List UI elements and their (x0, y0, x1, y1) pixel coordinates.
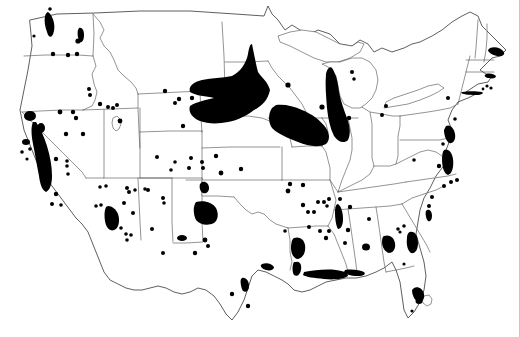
occurrence-point (173, 101, 177, 105)
occurrence-point (20, 150, 24, 154)
range-area-alabama-interior (362, 244, 370, 251)
range-area-california-sacramento (37, 123, 45, 133)
occurrence-point (442, 184, 446, 188)
occurrence-point (318, 229, 322, 233)
occurrence-point (81, 132, 85, 136)
occurrence-point (127, 190, 131, 194)
occurrence-point (143, 187, 147, 191)
occurrence-point (28, 147, 32, 151)
occurrence-point (161, 251, 165, 255)
occurrence-point (402, 262, 405, 265)
occurrence-point (131, 211, 135, 215)
occurrence-point (74, 116, 78, 120)
occurrence-point (66, 172, 70, 176)
occurrence-point (173, 160, 177, 164)
occurrence-point (71, 110, 75, 114)
occurrence-point (133, 188, 137, 192)
occurrence-point (118, 119, 123, 124)
occurrence-point (25, 157, 28, 160)
occurrence-point (99, 203, 103, 207)
occurrence-point (283, 229, 287, 233)
occurrence-point (51, 52, 55, 56)
range-area-california-north-lobe (24, 111, 36, 121)
occurrence-point (125, 238, 129, 242)
occurrence-point (453, 117, 457, 121)
occurrence-point (104, 184, 108, 188)
occurrence-point (75, 52, 79, 56)
occurrence-point (98, 185, 102, 189)
occurrence-point (50, 202, 54, 206)
occurrence-point (200, 160, 204, 164)
occurrence-point (187, 166, 191, 170)
occurrence-point (485, 84, 488, 87)
occurrence-point (446, 96, 450, 100)
occurrence-point (162, 201, 166, 205)
occurrence-point (430, 195, 434, 199)
occurrence-point (306, 210, 310, 214)
occurrence-point (203, 238, 208, 243)
occurrence-point (338, 197, 342, 201)
occurrence-point (124, 232, 128, 236)
occurrence-point (489, 86, 492, 89)
occurrence-point (380, 113, 384, 117)
occurrence-point (350, 70, 354, 74)
occurrence-point (161, 196, 165, 200)
occurrence-point (312, 210, 316, 214)
occurrence-point (129, 233, 133, 237)
occurrence-point (348, 205, 352, 209)
occurrence-point (94, 204, 98, 208)
occurrence-point (169, 168, 173, 172)
occurrence-point (347, 116, 351, 120)
occurrence-point (66, 53, 70, 57)
occurrence-point (230, 292, 234, 296)
distribution-map-figure (0, 0, 520, 337)
occurrence-point (352, 77, 356, 81)
range-area-chesapeake-bay (442, 149, 453, 175)
occurrence-point (319, 104, 324, 109)
occurrence-point (288, 182, 292, 186)
occurrence-point (327, 229, 331, 233)
occurrence-point (125, 186, 129, 190)
occurrence-point (181, 124, 185, 128)
occurrence-point (189, 156, 193, 160)
occurrence-point (59, 203, 63, 207)
occurrence-point (163, 89, 167, 93)
occurrence-point (54, 157, 58, 161)
occurrence-point (239, 167, 243, 171)
occurrence-point (343, 241, 347, 245)
occurrence-point (449, 180, 453, 184)
occurrence-point (58, 110, 63, 115)
occurrence-point (111, 106, 115, 110)
occurrence-point (115, 103, 119, 107)
occurrence-point (219, 171, 224, 176)
occurrence-point (193, 251, 197, 255)
occurrence-point (286, 189, 291, 194)
occurrence-point (410, 309, 413, 312)
occurrence-point (437, 164, 441, 168)
range-area-south-florida-second (416, 298, 423, 304)
occurrence-point (367, 217, 371, 221)
occurrence-point (441, 142, 445, 146)
occurrence-point (65, 159, 69, 163)
occurrence-point (316, 200, 320, 204)
state-borders-layer (20, 6, 506, 320)
range-area-california-bay-area (22, 139, 30, 145)
occurrence-point (412, 158, 416, 162)
occurrence-point (246, 304, 250, 308)
occurrence-point (106, 105, 110, 109)
occurrence-point (384, 104, 388, 108)
occurrence-point (206, 244, 210, 248)
occurrence-point (307, 225, 311, 229)
occurrence-point (285, 82, 290, 87)
occurrence-point (65, 164, 69, 168)
occurrence-point (427, 204, 431, 208)
occurrence-point (402, 224, 406, 228)
occurrence-point (301, 203, 305, 207)
occurrence-point (54, 192, 58, 196)
range-area-south-carolina-coast (426, 210, 432, 221)
occurrence-point (201, 166, 205, 170)
occurrence-point (482, 88, 485, 91)
occurrence-point (327, 197, 331, 201)
occurrence-point (177, 97, 181, 101)
occurrence-point (75, 38, 80, 43)
